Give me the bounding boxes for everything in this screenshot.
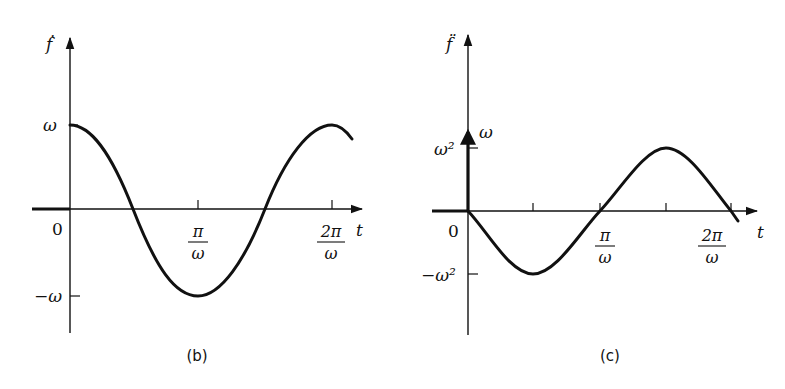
y-axis-label: ḟ: [44, 34, 55, 54]
svg-text:π: π: [599, 226, 611, 245]
panel-caption-b: (b): [186, 347, 207, 365]
x-axis-label: t: [757, 222, 764, 242]
origin-label: 0: [52, 219, 63, 239]
panel-c: [432, 35, 757, 335]
figure: polyline[data-name="f-dot-cosine-curve"]…: [0, 0, 785, 389]
x-tick-label-pi-over-omega: π ω: [188, 222, 208, 263]
impulse-label: ω: [479, 122, 493, 142]
panel-caption-c: (c): [600, 347, 620, 365]
svg-text:2π: 2π: [701, 226, 723, 245]
f-dot-curve: [70, 125, 134, 209]
x-tick-label-pi-over-omega: π ω: [595, 226, 615, 267]
svg-text:ω: ω: [598, 248, 611, 267]
y-tick-label-omega-squared: ω²: [434, 139, 455, 159]
labels-c: f̈ t 0 ω ω² −ω² π ω 2π ω (c): [421, 34, 764, 365]
x-tick-label-2pi-over-omega: 2π ω: [698, 226, 726, 267]
origin-label: 0: [448, 221, 459, 241]
f-dot-cosine: [70, 125, 352, 296]
labels-b: ḟ t 0 ω −ω π ω 2π ω (b): [34, 34, 363, 365]
x-tick-label-2pi-over-omega: 2π ω: [317, 222, 345, 263]
panel-b: [32, 38, 362, 333]
svg-text:ω: ω: [191, 244, 204, 263]
x-axis-label: t: [356, 220, 363, 240]
svg-text:π: π: [192, 222, 204, 241]
svg-text:2π: 2π: [320, 222, 342, 241]
svg-text:ω: ω: [324, 244, 337, 263]
y-tick-label-omega: ω: [43, 115, 57, 135]
svg-text:ω: ω: [705, 248, 718, 267]
y-tick-label-neg-omega: −ω: [34, 286, 62, 306]
y-axis-label: f̈: [444, 34, 456, 54]
y-tick-label-neg-omega-squared: −ω²: [421, 265, 456, 285]
